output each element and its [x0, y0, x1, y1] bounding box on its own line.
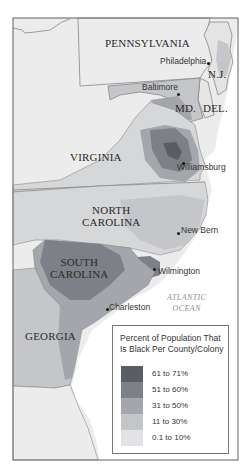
city-marker-baltimore [177, 93, 180, 96]
label-north-carolina-line1: NORTH [82, 204, 140, 216]
label-baltimore: Baltimore [142, 82, 178, 92]
city-marker-new-bern [177, 232, 180, 235]
label-atlantic: ATLANTIC [167, 292, 206, 303]
label-philadelphia: Philadelphia [160, 56, 206, 66]
city-marker-wilmington [153, 268, 156, 271]
legend-label-31-50: 31 to 50% [152, 401, 188, 410]
legend-label-0-10: 0.1 to 10% [152, 433, 190, 442]
label-wilmington: Wilmington [158, 266, 200, 276]
label-delaware: DEL. [203, 102, 228, 114]
label-maryland: MD. [175, 102, 196, 114]
label-north-carolina-line2: CAROLINA [82, 216, 140, 228]
legend-swatch-11-30 [121, 414, 143, 430]
legend-swatch-31-50 [121, 398, 143, 414]
label-new-bern: New Bern [181, 225, 218, 235]
legend-label-61-71: 61 to 71% [152, 369, 188, 378]
legend-swatch-0-10 [121, 430, 143, 446]
legend-swatch-51-60 [121, 382, 143, 398]
label-williamsburg: Williamsburg [177, 162, 226, 172]
label-georgia: GEORGIA [25, 330, 76, 342]
label-south-carolina-line2: CAROLINA [50, 268, 108, 280]
region-pennsylvania [78, 18, 212, 86]
label-charleston: Charleston [109, 302, 150, 312]
label-new-jersey: N.J. [208, 68, 227, 80]
city-marker-philadelphia [207, 62, 210, 65]
legend-label-11-30: 11 to 30% [152, 417, 187, 426]
legend: Percent of Population That Is Black Per … [112, 325, 229, 454]
label-virginia: VIRGINIA [70, 151, 122, 163]
label-pennsylvania: PENNSYLVANIA [105, 37, 190, 49]
label-south-carolina: SOUTH CAROLINA [50, 256, 108, 280]
label-south-carolina-line1: SOUTH [50, 256, 108, 268]
legend-swatch-61-71 [121, 366, 143, 382]
label-ocean: OCEAN [167, 303, 206, 314]
label-atlantic-ocean: ATLANTIC OCEAN [167, 292, 206, 314]
label-north-carolina: NORTH CAROLINA [82, 204, 140, 228]
legend-label-51-60: 51 to 60% [152, 385, 188, 394]
legend-title: Percent of Population That Is Black Per … [120, 333, 228, 355]
